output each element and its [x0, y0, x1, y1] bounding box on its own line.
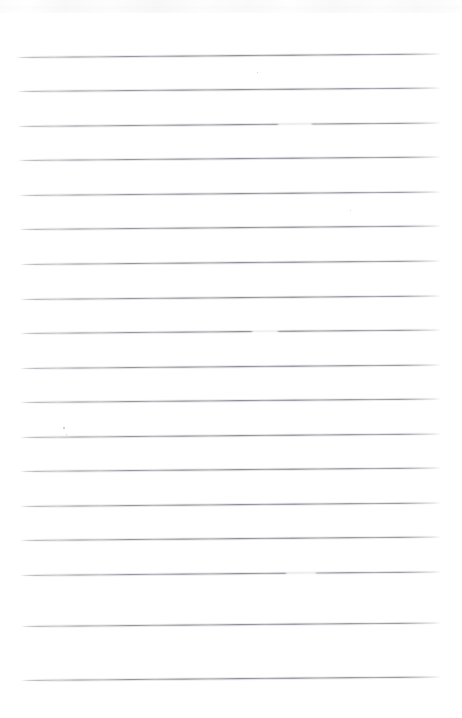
ruled-line: [20, 294, 441, 301]
ruled-line-ink-gap: [252, 330, 278, 334]
ruled-line: [20, 432, 441, 439]
ruled-line-ink-gap: [286, 572, 316, 576]
scan-speck: [257, 72, 258, 73]
ruled-line: [16, 52, 441, 59]
ruled-line: [20, 571, 441, 578]
scanned-page: [0, 0, 462, 718]
ruled-line: [21, 621, 441, 628]
ruled-line: [20, 536, 441, 543]
ruled-line: [20, 501, 441, 508]
ruled-line: [19, 225, 441, 232]
ruled-line: [19, 190, 441, 197]
ruled-line: [17, 87, 441, 94]
ruled-line: [20, 329, 441, 336]
scan-speck: [63, 427, 65, 429]
ruled-line: [20, 259, 441, 266]
ruled-line: [20, 363, 441, 370]
ruled-line: [17, 121, 441, 128]
ruled-line: [18, 156, 441, 163]
ruled-line: [20, 398, 441, 405]
ruled-line: [21, 676, 441, 683]
scan-edge-smudge: [0, 0, 462, 13]
ruled-line-ink-gap: [278, 122, 312, 126]
ruled-line: [20, 467, 441, 474]
scan-speck: [350, 210, 351, 211]
